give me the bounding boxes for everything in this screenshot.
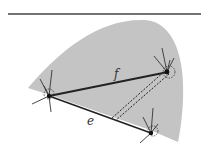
diagram-canvas: f e <box>0 0 204 167</box>
edge-e-label: e <box>87 114 94 128</box>
shaded-region <box>28 20 183 142</box>
